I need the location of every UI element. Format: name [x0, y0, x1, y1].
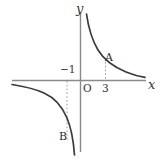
hyperbola-figure: y x O −1 3 A B: [0, 0, 162, 161]
x-tick-label-negative-one: −1: [60, 64, 75, 75]
point-label-a: A: [105, 52, 113, 63]
point-label-b: B: [59, 131, 67, 142]
curve-branch-quadrant-iii: [12, 85, 75, 156]
x-tick-label-three: 3: [102, 83, 109, 94]
y-axis-label: y: [76, 2, 83, 15]
origin-label: O: [83, 83, 92, 94]
x-axis-label: x: [148, 78, 155, 91]
figure-canvas: [0, 0, 162, 161]
curve-branch-quadrant-i: [87, 14, 146, 77]
